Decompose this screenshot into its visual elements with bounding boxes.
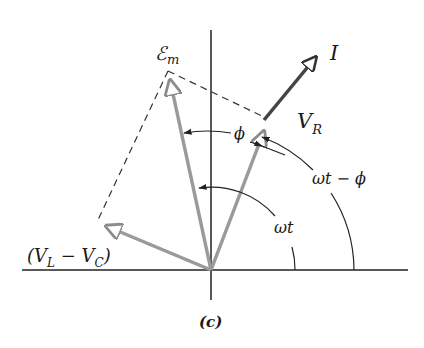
label-omega-t-minus-phi: ωt − ϕ [312, 169, 366, 188]
phasor-vl-minus-vc [106, 226, 211, 270]
dashed-line-em-to-vr [168, 71, 266, 118]
omega-t-arc-lower [292, 247, 295, 270]
omega-t-minus-phi-arc-upper [262, 137, 313, 170]
label-vr: VR [297, 109, 322, 137]
phi-arc-left [184, 131, 231, 133]
phasor-diagram: ℰm I VR ϕ ωt ωt − ϕ (VL − VC) (c) [0, 0, 424, 348]
label-vl-minus-vc: (VL − VC) [27, 245, 111, 270]
label-current: I [329, 41, 339, 65]
label-omega-t: ωt [274, 218, 294, 237]
label-emf: ℰm [155, 42, 179, 67]
phasor-em [170, 80, 211, 270]
dashed-line-em-to-vlvc [97, 71, 168, 222]
phi-tick-right [262, 146, 285, 155]
omega-t-minus-phi-arc-lower [331, 193, 354, 270]
figure-caption: (c) [199, 313, 222, 331]
phasor-vr [211, 131, 264, 270]
label-phi: ϕ [234, 124, 245, 143]
